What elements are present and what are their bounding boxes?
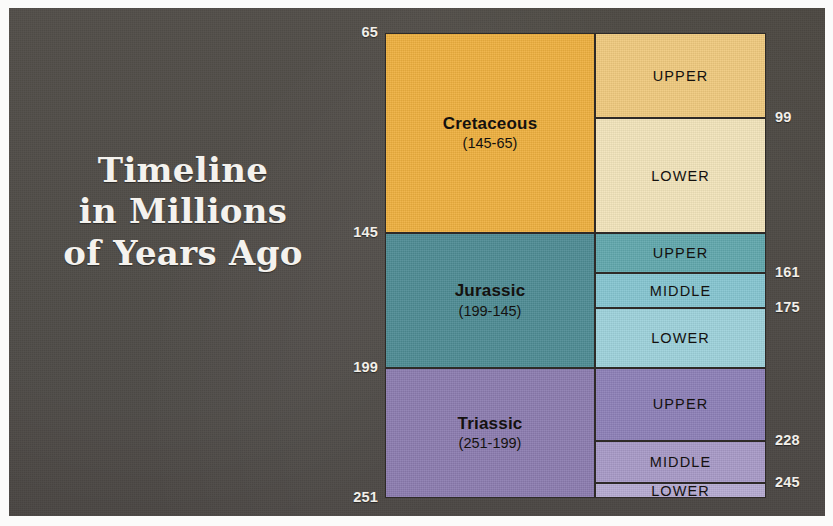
- period-column: Cretaceous(145-65)Jurassic(199-145)Trias…: [385, 33, 595, 498]
- axis-tick-left-145: 145: [353, 224, 378, 240]
- epoch-name: UPPER: [653, 245, 708, 261]
- period-name: Triassic: [458, 414, 523, 434]
- period-name: Cretaceous: [443, 114, 538, 134]
- epoch-name: LOWER: [651, 330, 710, 346]
- epoch-cell-jurassic-upper[interactable]: UPPER: [595, 233, 766, 273]
- title-line-2: in Millions: [18, 191, 348, 232]
- timeline-poster: Timelinein Millionsof Years Ago Cretaceo…: [0, 0, 833, 526]
- epoch-name: LOWER: [651, 168, 710, 184]
- period-cell-jurassic[interactable]: Jurassic(199-145): [385, 233, 595, 368]
- epoch-column: UPPERLOWERUPPERMIDDLELOWERUPPERMIDDLELOW…: [595, 33, 766, 498]
- axis-tick-right-228: 228: [775, 432, 800, 448]
- period-range-label: (199-145): [459, 303, 522, 320]
- axis-tick-left-199: 199: [353, 359, 378, 375]
- epoch-cell-triassic-middle[interactable]: MIDDLE: [595, 441, 766, 484]
- title-line-1: Timeline: [18, 150, 348, 191]
- period-range-label: (145-65): [463, 135, 518, 152]
- epoch-cell-cretaceous-upper[interactable]: UPPER: [595, 33, 766, 118]
- epoch-cell-triassic-upper[interactable]: UPPER: [595, 368, 766, 441]
- epoch-name: MIDDLE: [650, 454, 711, 470]
- period-range-label: (251-199): [459, 435, 522, 452]
- axis-tick-right-99: 99: [775, 109, 792, 125]
- axis-tick-right-245: 245: [775, 474, 800, 490]
- period-cell-cretaceous[interactable]: Cretaceous(145-65): [385, 33, 595, 233]
- axis-tick-left-65: 65: [361, 24, 378, 40]
- axis-tick-right-175: 175: [775, 299, 800, 315]
- epoch-name: UPPER: [653, 396, 708, 412]
- axis-tick-right-161: 161: [775, 264, 800, 280]
- geologic-timeline-chart: Cretaceous(145-65)Jurassic(199-145)Trias…: [385, 33, 766, 498]
- epoch-name: LOWER: [651, 483, 710, 498]
- title-line-3: of Years Ago: [18, 233, 348, 274]
- period-name: Jurassic: [455, 281, 526, 301]
- epoch-cell-cretaceous-lower[interactable]: LOWER: [595, 118, 766, 233]
- epoch-name: UPPER: [653, 68, 708, 84]
- epoch-cell-triassic-lower[interactable]: LOWER: [595, 483, 766, 498]
- axis-tick-left-251: 251: [353, 489, 378, 505]
- epoch-cell-jurassic-lower[interactable]: LOWER: [595, 308, 766, 368]
- epoch-name: MIDDLE: [650, 283, 711, 299]
- period-cell-triassic[interactable]: Triassic(251-199): [385, 368, 595, 498]
- epoch-cell-jurassic-middle[interactable]: MIDDLE: [595, 273, 766, 308]
- page-title: Timelinein Millionsof Years Ago: [18, 150, 348, 274]
